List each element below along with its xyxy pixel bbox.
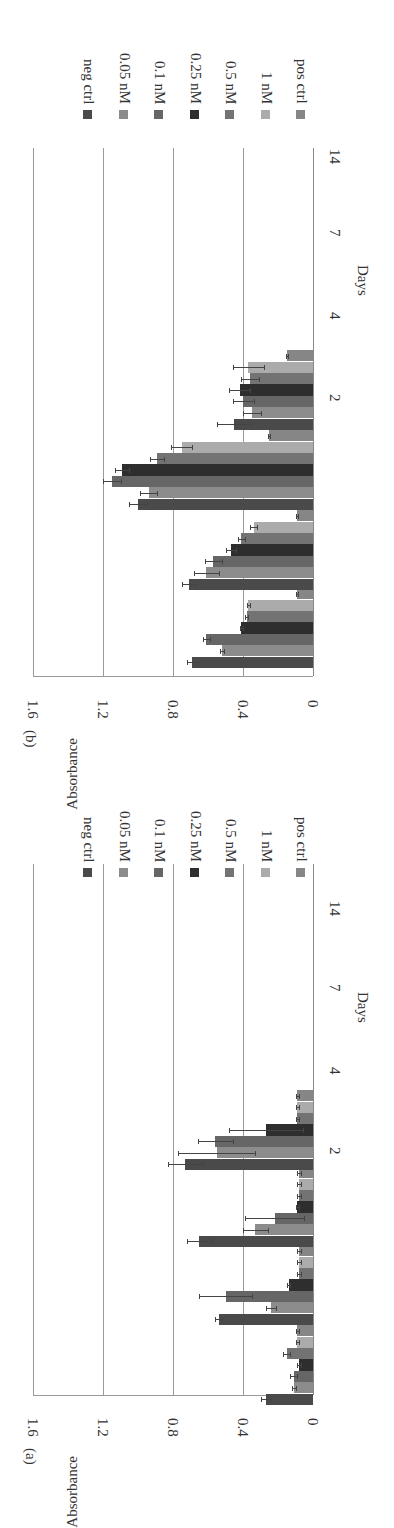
error-bar-cap [187,1239,188,1244]
error-bar-cap [297,1374,298,1379]
legend-item: pos ctrl [293,768,313,878]
error-bar-cap [301,1272,302,1277]
error-bar-cap [266,1306,267,1311]
error-bar [283,1354,290,1355]
legend-item: 0.5 nM [222,768,242,878]
legend-item: neg ctrl [80,768,100,878]
error-bar-cap [297,1260,298,1265]
error-bar-cap [276,1306,277,1311]
error-bar-cap [215,1317,216,1322]
category-tick-label: 7 [326,984,343,992]
legend-label: pos ctrl [293,817,310,862]
error-bar-cap [290,1374,291,1379]
category-axis-line [313,864,314,1395]
legend-item: 1 nM [258,768,278,878]
error-bar [245,1218,305,1219]
error-bar-cap [199,1294,200,1299]
legend-swatch [119,868,128,877]
legend-label: 1 nM [258,830,275,862]
error-bar [243,1230,268,1231]
bar [185,1159,313,1170]
error-bar-cap [297,1272,298,1277]
error-bar-cap [212,1239,213,1244]
legend-label: 0.25 nM [187,811,204,862]
error-bar-cap [296,1329,297,1334]
error-bar [198,1141,233,1142]
error-bar-cap [297,1363,298,1368]
bar [271,1302,313,1313]
category-axis-title: Days [354,992,371,1023]
error-bar-cap [287,1283,288,1288]
error-bar-cap [297,1182,298,1187]
error-bar-cap [299,1117,300,1122]
gridline [103,864,104,1395]
error-bar-cap [297,1171,298,1176]
error-bar [199,1296,252,1297]
error-bar-cap [290,1352,291,1357]
error-bar-cap [296,1205,297,1210]
error-bar-cap [252,1294,253,1299]
legend-swatch [190,868,199,877]
legend-label: 0.05 nM [116,811,133,862]
error-bar-cap [301,1260,302,1265]
bar [199,1236,313,1247]
legend-label: neg ctrl [80,817,97,862]
legend-swatch [225,868,234,877]
error-bar-cap [297,1249,298,1254]
panel-label: (a) [22,1448,39,1465]
error-bar-cap [301,1182,302,1187]
value-tick-label: 1.2 [94,1418,111,1437]
error-bar-cap [301,1194,302,1199]
error-bar-cap [203,1162,204,1167]
value-tick-label: 1.6 [24,1418,41,1437]
bar [219,1314,314,1325]
legend-item: 0.1 nM [151,768,171,878]
error-bar [215,1319,222,1320]
error-bar-cap [296,1094,297,1099]
error-bar-cap [301,1363,302,1368]
error-bar-cap [304,1216,305,1221]
error-bar-cap [229,1128,230,1133]
legend-label: 0.5 nM [222,819,239,862]
error-bar-cap [296,1105,297,1110]
error-bar-cap [255,1151,256,1156]
value-tick-label: 0 [304,1418,321,1426]
legend-label: 0.1 nM [151,819,168,862]
value-tick-label: 0.4 [234,1418,251,1437]
error-bar-cap [299,1340,300,1345]
category-tick-label: 4 [326,1067,343,1075]
error-bar-cap [233,1139,234,1144]
error-bar-cap [245,1216,246,1221]
error-bar-cap [296,1386,297,1391]
error-bar-cap [271,1397,272,1402]
error-bar-cap [301,1171,302,1176]
error-bar [187,1241,212,1242]
error-bar-cap [168,1162,169,1167]
error-bar-cap [268,1228,269,1233]
error-bar [261,1399,272,1400]
bar [294,1382,313,1393]
error-bar-cap [299,1329,300,1334]
error-bar-cap [261,1397,262,1402]
error-bar-cap [243,1228,244,1233]
error-bar [290,1376,297,1377]
error-bar [168,1164,203,1165]
legend-swatch [83,868,92,877]
error-bar-cap [178,1151,179,1156]
error-bar-cap [296,1117,297,1122]
value-tick-label: 0.8 [164,1418,181,1437]
category-tick-label: 14 [326,901,343,916]
error-bar-cap [299,1205,300,1210]
error-bar [178,1153,255,1154]
error-bar-cap [303,1128,304,1133]
error-bar-cap [297,1194,298,1199]
bar [266,1394,313,1405]
error-bar-cap [292,1386,293,1391]
legend-swatch [261,868,270,877]
error-bar [266,1308,277,1309]
error-bar-cap [290,1283,291,1288]
error-bar-cap [301,1249,302,1254]
legend-swatch [154,868,163,877]
value-axis-title: Absorbance [64,1456,81,1528]
